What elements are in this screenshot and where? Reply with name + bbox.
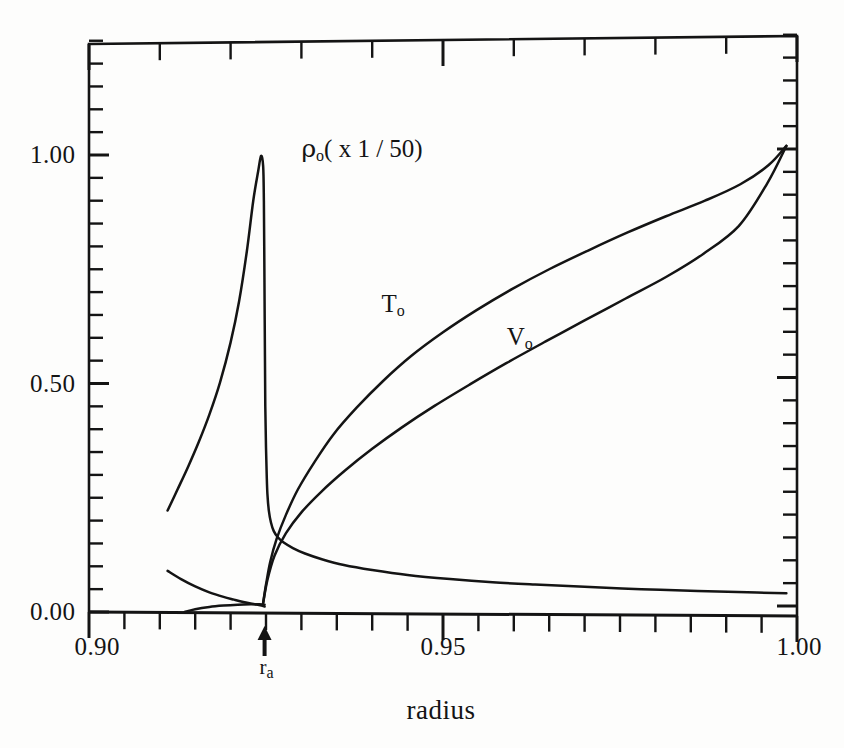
- curve-label-rho: ρo( x 1 / 50): [301, 136, 422, 164]
- x-tick-label-2: 1.00: [777, 634, 822, 659]
- y-tick-label-1: 0.50: [30, 371, 75, 396]
- curve-rho-o-x-1-50-: [168, 156, 787, 593]
- ra-axis-annotation: ra: [260, 657, 274, 681]
- x-tick-label-1: 0.95: [421, 634, 466, 659]
- V-subscript: o: [525, 335, 533, 352]
- axis-ticks: [89, 35, 797, 642]
- curve-label-T: To: [381, 291, 404, 319]
- curve-rho-o-lower-branch: [168, 571, 265, 607]
- curve-label-V: Vo: [507, 324, 533, 352]
- curve-t-o: [263, 146, 786, 603]
- rho-letter: ρ: [301, 134, 316, 163]
- x-tick-label-0: 0.90: [75, 634, 120, 659]
- data-curves: [168, 146, 787, 612]
- T-subscript: o: [397, 302, 405, 319]
- ra-arrow-marker: [258, 626, 272, 656]
- ra-letter: r: [260, 655, 267, 679]
- x-axis-title: radius: [407, 697, 476, 724]
- ra-subscript: a: [267, 664, 274, 681]
- V-letter: V: [507, 323, 525, 350]
- figure-plot-radius-profile: 0.00 0.50 1.00 0.90 0.95 1.00 ra ρo( x 1…: [0, 0, 844, 748]
- T-letter: T: [381, 290, 396, 317]
- y-tick-label-2: 1.00: [30, 142, 75, 167]
- curve-near-zero-trace: [185, 604, 265, 612]
- rho-subscript: o: [316, 148, 324, 165]
- plot-frame: [89, 36, 797, 616]
- y-tick-label-0: 0.00: [30, 599, 75, 624]
- curve-v-o: [263, 146, 786, 603]
- rho-scale-text: ( x 1 / 50): [324, 135, 423, 162]
